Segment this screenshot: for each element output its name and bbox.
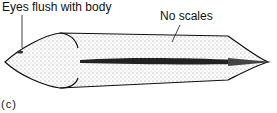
fish-illustration bbox=[0, 0, 277, 113]
annotation-eyes: Eyes flush with body bbox=[2, 1, 111, 13]
annotation-scales: No scales bbox=[160, 10, 213, 22]
panel-label: (c) bbox=[1, 99, 17, 110]
eye-left bbox=[17, 51, 23, 54]
